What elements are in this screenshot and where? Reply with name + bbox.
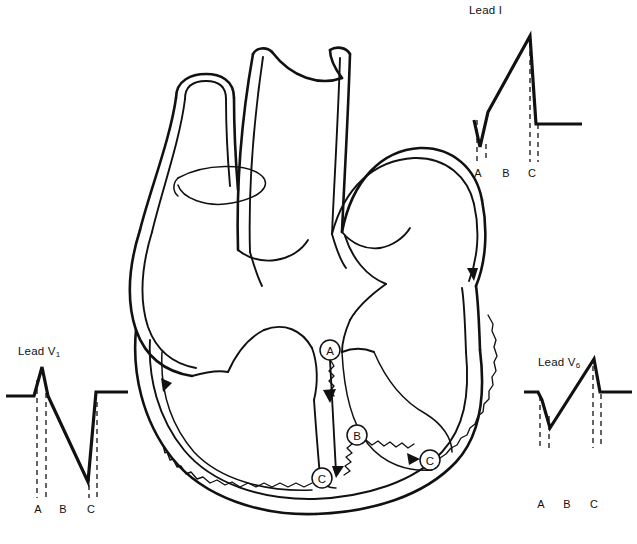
ecg-trace-lead-1-svg: [452, 2, 637, 192]
ecg-panel-lead-v6: Lead V6 A B C: [512, 352, 637, 544]
pulmonary-artery-icon: [330, 48, 350, 234]
atrioventricular-valves: [192, 228, 410, 400]
ecg-tick-lead-v1-a: A: [31, 503, 45, 515]
node-a-label: A: [326, 345, 334, 357]
ecg-tick-lead-1-b: B: [499, 167, 513, 179]
ventricles: [135, 286, 482, 514]
ecg-panel-lead-1-title-main: Lead I: [469, 4, 502, 16]
node-c-right: C: [420, 450, 440, 470]
ecg-trace-lead-v6-svg: [512, 352, 637, 544]
node-c-right-label: C: [426, 455, 434, 467]
conduction-path-b-to-c-right: [366, 440, 420, 465]
ecg-panel-lead-v1-title-main: Lead V: [18, 345, 56, 357]
aorta-icon: [238, 48, 342, 252]
ecg-panel-lead-v6-title: Lead V6: [538, 356, 580, 368]
ecg-trace-lead-1: [474, 36, 582, 147]
node-a: A: [320, 340, 340, 360]
ecg-trace-lead-v1: [6, 367, 128, 482]
ecg-panel-lead-1: Lead I A B C: [452, 2, 637, 192]
node-c-left: C: [312, 468, 332, 488]
ecg-tick-lead-v1-b: B: [56, 503, 70, 515]
ecg-panel-lead-v1: Lead V1 A B C: [0, 340, 135, 544]
ecg-panel-lead-v6-title-sub: 6: [576, 361, 581, 370]
ecg-tick-lead-v6-a: A: [534, 498, 548, 510]
node-b-label: B: [353, 430, 361, 442]
ecg-panel-lead-v1-title-sub: 1: [56, 350, 61, 359]
conduction-path-rv-free-wall: [440, 268, 497, 458]
superior-vena-cava-icon: [140, 74, 238, 232]
ecg-panel-lead-1-title: Lead I: [469, 4, 502, 16]
ecg-panel-lead-v6-title-main: Lead V: [538, 356, 576, 368]
ecg-tick-lead-v6-c: C: [587, 498, 601, 510]
ecg-tick-lead-v1-c: C: [84, 503, 98, 515]
ecg-tick-lead-1-a: A: [471, 167, 485, 179]
conduction-path-lv-free-wall: [161, 378, 312, 487]
ecg-panel-lead-v1-title: Lead V1: [18, 345, 60, 357]
node-c-left-label: C: [318, 473, 326, 485]
ecg-tick-lead-1-c: C: [525, 167, 539, 179]
figure-canvas: A B C C Lead I: [0, 0, 637, 544]
node-b: B: [347, 425, 367, 445]
ecg-tick-lead-v6-b: B: [560, 498, 574, 510]
